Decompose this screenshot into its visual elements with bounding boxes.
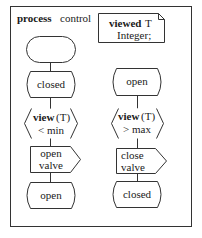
output-open-valve: open valve	[31, 147, 81, 173]
output-close-valve: close valve	[117, 149, 167, 174]
input-arg: (T)	[56, 111, 70, 124]
input-arg: (T)	[141, 110, 155, 123]
state-closed-right: closed	[113, 182, 161, 208]
state-closed-left: closed	[27, 72, 75, 98]
process-name: control	[60, 12, 91, 24]
state-label: closed	[123, 188, 152, 200]
input-condition: < min	[38, 124, 65, 136]
output-line1: close	[121, 149, 144, 161]
output-line2: valve	[39, 159, 63, 171]
declaration-keyword: viewed	[109, 17, 141, 29]
declaration-type: Integer;	[117, 29, 151, 41]
state-label: open	[126, 75, 148, 87]
state-label: open	[40, 189, 62, 201]
output-line2: valve	[121, 161, 145, 173]
input-view-right: view (T) > max	[112, 109, 164, 139]
declaration-text-symbol: viewed T Integer;	[99, 14, 165, 43]
process-keyword: process	[17, 12, 52, 24]
state-open-right: open	[113, 69, 161, 96]
start-symbol	[27, 37, 76, 63]
input-keyword: view	[33, 111, 54, 123]
input-keyword: view	[118, 110, 139, 122]
sdl-process-diagram: process control viewed T Integer; closed…	[0, 0, 202, 238]
input-condition: > max	[123, 123, 151, 135]
declaration-variable: T	[145, 17, 152, 29]
state-label: closed	[37, 78, 66, 90]
output-line1: open	[40, 147, 62, 159]
input-view-left: view (T) < min	[25, 109, 78, 139]
state-open-left: open	[27, 183, 75, 209]
